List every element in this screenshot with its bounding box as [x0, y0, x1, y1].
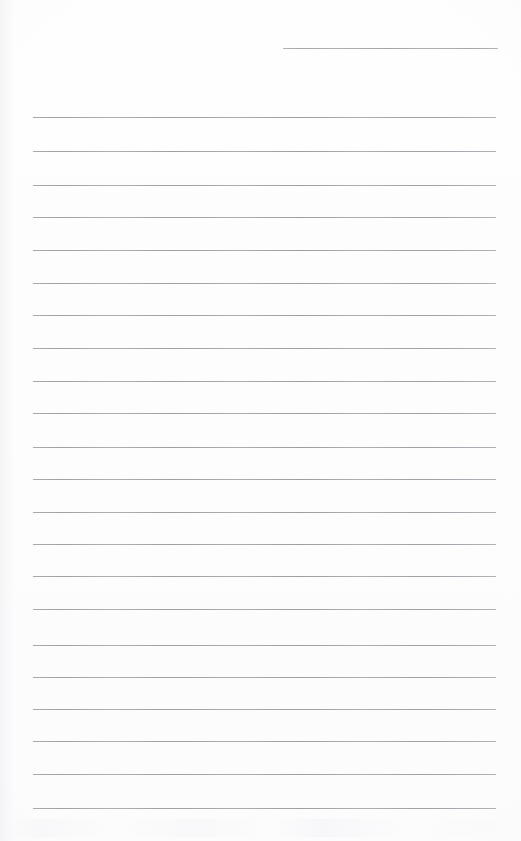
- ruling-line: [33, 283, 496, 284]
- ruling-line: [33, 677, 496, 678]
- ruling-line: [33, 741, 496, 742]
- ruling-line: [33, 117, 496, 118]
- ruling-line: [33, 609, 496, 610]
- ruling-line: [33, 808, 496, 809]
- ruling-line: [33, 544, 496, 545]
- ruling-line: [33, 774, 496, 775]
- ruling-line: [33, 315, 496, 316]
- ruling-line: [33, 151, 496, 152]
- ruling-line: [33, 217, 496, 218]
- ruling-line: [33, 645, 496, 646]
- ruling-line: [33, 576, 496, 577]
- scan-edge-shadow: [0, 0, 14, 841]
- ruling-line: [33, 413, 496, 414]
- scan-smudge-artifact: [0, 819, 521, 837]
- ruling-line: [33, 709, 496, 710]
- ruling-line: [33, 479, 496, 480]
- ruling-line-partial: [283, 48, 498, 49]
- paper-texture: [0, 0, 521, 841]
- ruling-line: [33, 447, 496, 448]
- scanned-page: [0, 0, 521, 841]
- ruling-line: [33, 381, 496, 382]
- ruling-line: [33, 348, 496, 349]
- ruling-line: [33, 250, 496, 251]
- ruling-line: [33, 185, 496, 186]
- ruling-line: [33, 512, 496, 513]
